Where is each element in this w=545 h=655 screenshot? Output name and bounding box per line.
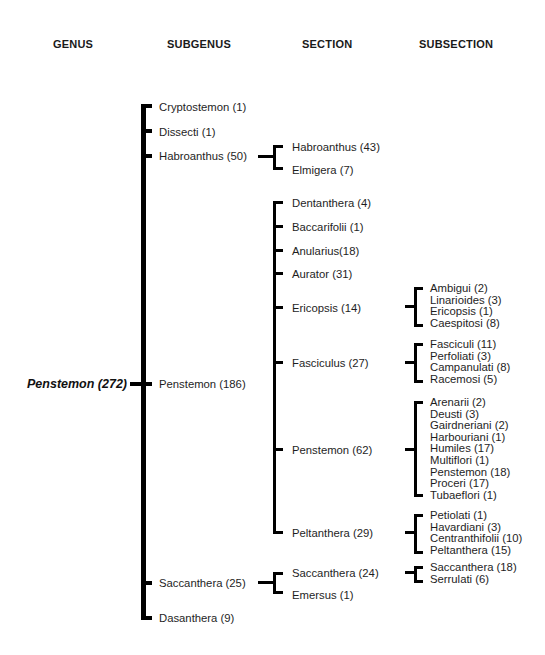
subsection-item: Multiflori (1) [430, 455, 510, 467]
section-ericopsis: Ericopsis (14) [292, 302, 361, 314]
section-tick-anularius [273, 249, 283, 252]
saccanthera-connector [258, 581, 274, 584]
subgenus-tick-dissecti [141, 129, 152, 133]
subsection-item: Arenarii (2) [430, 397, 510, 409]
subgenus-dissecti: Dissecti (1) [159, 126, 216, 138]
subsection-item: Fasciculi (11) [430, 339, 510, 351]
subsection-item: Tubaeflori (1) [430, 490, 510, 502]
section-emersus: Emersus (1) [292, 589, 354, 601]
subsections-fasciculus: Fasciculi (11) Perfoliati (3) Campanulat… [430, 339, 510, 385]
habroanthus-tick-2 [273, 167, 283, 170]
subsections-peltanthera: Petiolati (1) Havardiani (3) Centranthif… [430, 510, 522, 556]
header-subsection: SUBSECTION [419, 38, 493, 50]
saccanthera-tick-2 [273, 591, 283, 594]
habroanthus-connector [258, 155, 274, 158]
ericopsis-sub-bracket [414, 287, 417, 327]
section-fasciculus: Fasciculus (27) [292, 357, 369, 369]
section-tick-peltanthera [273, 531, 283, 534]
section-anularius: Anularius(18) [292, 245, 359, 257]
saccanthera-sub-tick-bottom [414, 580, 423, 583]
penstemon-sub-bracket [414, 401, 417, 497]
subgenus-tick-cryptostemon [141, 104, 152, 108]
subgenus-cryptostemon: Cryptostemon (1) [159, 101, 246, 113]
section-baccarifolii: Baccarifolii (1) [292, 221, 364, 233]
ericopsis-sub-tick-bottom [414, 324, 423, 327]
header-genus: GENUS [53, 38, 93, 50]
subgenus-habroanthus: Habroanthus (50) [159, 150, 247, 162]
fasciculus-sub-tick-bottom [414, 380, 423, 383]
saccanthera-sub-tick-top [414, 566, 423, 569]
section-saccanthera: Saccanthera (24) [292, 567, 379, 579]
section-dentanthera: Dentanthera (4) [292, 197, 371, 209]
subsections-ericopsis: Ambigui (2) Linarioides (3) Ericopsis (1… [430, 283, 502, 329]
section-tick-fasciculus [273, 361, 283, 364]
header-subgenus: SUBGENUS [167, 38, 231, 50]
section-tick-ericopsis [273, 306, 283, 309]
subgenus-tick-dasanthera [141, 616, 152, 620]
habroanthus-tick-1 [273, 145, 283, 148]
subsection-item: Peltanthera (15) [430, 545, 522, 557]
peltanthera-sub-bracket [414, 514, 417, 554]
section-penstemon: Penstemon (62) [292, 444, 372, 456]
subsection-item: Petiolati (1) [430, 510, 522, 522]
subsection-item: Serrulati (6) [430, 574, 517, 586]
subgenus-tick-saccanthera [141, 581, 152, 585]
section-aurator: Aurator (31) [292, 268, 352, 280]
section-tick-dentanthera [273, 201, 283, 204]
section-habroanthus: Habroanthus (43) [292, 141, 380, 153]
peltanthera-sub-tick-bottom [414, 551, 423, 554]
section-tick-penstemon [273, 448, 283, 451]
section-tick-baccarifolii [273, 225, 283, 228]
subgenus-tick-habroanthus [141, 154, 152, 158]
subgenus-saccanthera: Saccanthera (25) [159, 577, 246, 589]
subsections-saccanthera: Saccanthera (18) Serrulati (6) [430, 562, 517, 585]
genus-penstemon: Penstemon (272) [27, 377, 127, 391]
ericopsis-sub-tick-top [414, 287, 423, 290]
section-elmigera: Elmigera (7) [292, 164, 354, 176]
penstemon-sub-tick-top [414, 401, 423, 404]
subsection-item: Racemosi (5) [430, 374, 510, 386]
subgenus-penstemon: Penstemon (186) [159, 378, 246, 390]
fasciculus-sub-tick-top [414, 343, 423, 346]
section-tick-aurator [273, 272, 283, 275]
subgenus-dasanthera: Dasanthera (9) [159, 612, 234, 624]
subgenus-tick-penstemon [141, 382, 152, 386]
subsection-item: Caespitosi (8) [430, 318, 502, 330]
peltanthera-sub-tick-top [414, 514, 423, 517]
subgenus-trunk [141, 104, 146, 620]
subsections-penstemon: Arenarii (2) Deusti (3) Gairdneriani (2)… [430, 397, 510, 501]
subsection-item: Proceri (17) [430, 478, 510, 490]
subsection-item: Ambigui (2) [430, 283, 502, 295]
fasciculus-sub-bracket [414, 343, 417, 383]
penstemon-sub-tick-bottom [414, 494, 423, 497]
header-section: SECTION [302, 38, 352, 50]
subsection-item: Saccanthera (18) [430, 562, 517, 574]
saccanthera-tick-1 [273, 572, 283, 575]
section-peltanthera: Peltanthera (29) [292, 527, 373, 539]
